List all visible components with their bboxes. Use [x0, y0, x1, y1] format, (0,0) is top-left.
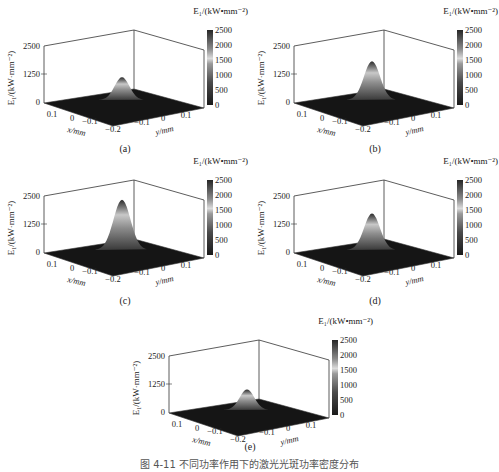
svg-text:0: 0 — [320, 113, 324, 123]
svg-text:0: 0 — [411, 263, 415, 273]
colorbar — [332, 340, 338, 415]
svg-text:2000: 2000 — [465, 190, 482, 200]
svg-text:0.1: 0.1 — [172, 419, 183, 429]
svg-text:0: 0 — [215, 250, 219, 260]
surface-plot-c: 250012500E₁/(kW·mm⁻²)0.10−0.1−0.2x/mm−0.… — [0, 150, 250, 300]
surface-plot-e: 250012500E₁/(kW·mm⁻²)0.10−0.1−0.2x/mm−0.… — [125, 310, 375, 460]
svg-text:0.1: 0.1 — [431, 110, 442, 120]
svg-text:−0.1: −0.1 — [259, 427, 274, 437]
svg-text:0: 0 — [340, 410, 344, 420]
svg-text:2500: 2500 — [273, 41, 290, 51]
svg-text:2500: 2500 — [465, 25, 482, 35]
svg-text:y/mm: y/mm — [278, 433, 299, 447]
panel-label-c: (c) — [105, 295, 145, 306]
svg-text:2000: 2000 — [215, 40, 232, 50]
svg-text:0: 0 — [465, 250, 469, 260]
svg-text:−0.1: −0.1 — [384, 267, 399, 277]
svg-text:0: 0 — [286, 97, 290, 107]
svg-text:0: 0 — [70, 263, 74, 273]
svg-text:−0.1: −0.1 — [332, 266, 347, 276]
svg-text:0.1: 0.1 — [431, 260, 442, 270]
svg-text:y/mm: y/mm — [403, 123, 424, 137]
svg-text:−0.1: −0.1 — [332, 116, 347, 126]
figure-caption: 图 4-11 不同功率作用下的激光光斑功率密度分布 — [0, 456, 499, 471]
colorbar — [207, 180, 213, 255]
svg-text:1250: 1250 — [148, 379, 165, 389]
svg-text:1250: 1250 — [23, 69, 40, 79]
panel-label-d: (d) — [355, 295, 395, 306]
surface-plot-d: 250012500E₁/(kW·mm⁻²)0.10−0.1−0.2x/mm−0.… — [250, 150, 499, 300]
svg-text:1250: 1250 — [273, 69, 290, 79]
axes-box: 250012500E₁/(kW·mm⁻²)0.10−0.1−0.2x/mm−0.… — [256, 6, 498, 138]
svg-text:1000: 1000 — [465, 70, 482, 80]
panel-e: 250012500E₁/(kW·mm⁻²)0.10−0.1−0.2x/mm−0.… — [125, 310, 375, 460]
svg-text:0: 0 — [320, 263, 324, 273]
svg-text:0: 0 — [286, 423, 290, 433]
svg-text:−0.1: −0.1 — [384, 117, 399, 127]
panel-d: 250012500E₁/(kW·mm⁻²)0.10−0.1−0.2x/mm−0.… — [250, 150, 499, 300]
svg-text:E₁/(kW•mm⁻²): E₁/(kW•mm⁻²) — [443, 156, 498, 166]
svg-text:500: 500 — [215, 235, 228, 245]
svg-text:1250: 1250 — [273, 219, 290, 229]
svg-text:E₁/(kW•mm⁻²): E₁/(kW•mm⁻²) — [443, 6, 498, 16]
svg-text:2500: 2500 — [215, 175, 232, 185]
svg-text:0: 0 — [465, 100, 469, 110]
svg-text:E₁/(kW•mm⁻²): E₁/(kW•mm⁻²) — [193, 156, 248, 166]
svg-text:0: 0 — [215, 100, 219, 110]
svg-text:x/mm: x/mm — [191, 434, 212, 448]
svg-text:1250: 1250 — [23, 219, 40, 229]
svg-text:E₁/(kW·mm⁻²): E₁/(kW·mm⁻²) — [6, 201, 16, 256]
svg-text:0: 0 — [195, 423, 199, 433]
svg-text:E₁/(kW•mm⁻²): E₁/(kW•mm⁻²) — [318, 316, 373, 326]
svg-text:1500: 1500 — [215, 205, 232, 215]
svg-text:500: 500 — [215, 85, 228, 95]
svg-text:0.1: 0.1 — [297, 259, 308, 269]
svg-text:1000: 1000 — [215, 70, 232, 80]
colorbar — [457, 30, 463, 105]
svg-text:x/mm: x/mm — [316, 274, 337, 288]
svg-text:0: 0 — [161, 407, 165, 417]
svg-text:2500: 2500 — [465, 175, 482, 185]
axes-box: 250012500E₁/(kW·mm⁻²)0.10−0.1−0.2x/mm−0.… — [6, 156, 248, 288]
panel-c: 250012500E₁/(kW·mm⁻²)0.10−0.1−0.2x/mm−0.… — [0, 150, 250, 300]
svg-text:0.1: 0.1 — [306, 420, 317, 430]
svg-text:1000: 1000 — [340, 380, 357, 390]
svg-text:0.1: 0.1 — [181, 260, 192, 270]
axes-box: 250012500E₁/(kW·mm⁻²)0.10−0.1−0.2x/mm−0.… — [131, 316, 373, 448]
svg-text:2000: 2000 — [340, 350, 357, 360]
svg-text:−0.1: −0.1 — [134, 267, 149, 277]
svg-text:2500: 2500 — [215, 25, 232, 35]
svg-text:0: 0 — [161, 263, 165, 273]
svg-text:E₁/(kW•mm⁻²): E₁/(kW•mm⁻²) — [193, 6, 248, 16]
svg-text:−0.2: −0.2 — [105, 124, 120, 134]
svg-text:500: 500 — [465, 235, 478, 245]
svg-text:1000: 1000 — [465, 220, 482, 230]
svg-text:500: 500 — [465, 85, 478, 95]
svg-text:0: 0 — [36, 247, 40, 257]
svg-text:2500: 2500 — [340, 335, 357, 345]
svg-text:0: 0 — [411, 113, 415, 123]
svg-text:0: 0 — [36, 97, 40, 107]
svg-text:−0.1: −0.1 — [134, 117, 149, 127]
svg-text:0: 0 — [286, 247, 290, 257]
svg-text:0.1: 0.1 — [47, 259, 58, 269]
svg-text:x/mm: x/mm — [316, 124, 337, 138]
svg-text:1000: 1000 — [215, 220, 232, 230]
colorbar — [207, 30, 213, 105]
svg-text:E₁/(kW·mm⁻²): E₁/(kW·mm⁻²) — [6, 51, 16, 106]
svg-text:−0.1: −0.1 — [207, 426, 222, 436]
surface-plot-b: 250012500E₁/(kW·mm⁻²)0.10−0.1−0.2x/mm−0.… — [250, 0, 499, 150]
svg-text:E₁/(kW·mm⁻²): E₁/(kW·mm⁻²) — [256, 201, 266, 256]
panel-a: 250012500E₁/(kW·mm⁻²)0.10−0.1−0.2x/mm−0.… — [0, 0, 250, 150]
svg-text:500: 500 — [340, 395, 353, 405]
svg-text:1500: 1500 — [215, 55, 232, 65]
svg-text:2500: 2500 — [273, 191, 290, 201]
svg-text:0.1: 0.1 — [297, 109, 308, 119]
svg-text:0.1: 0.1 — [47, 109, 58, 119]
colorbar — [457, 180, 463, 255]
svg-text:2500: 2500 — [23, 191, 40, 201]
svg-text:E₁/(kW·mm⁻²): E₁/(kW·mm⁻²) — [256, 51, 266, 106]
svg-text:y/mm: y/mm — [403, 273, 424, 287]
svg-text:E₁/(kW·mm⁻²): E₁/(kW·mm⁻²) — [131, 361, 141, 416]
svg-text:2000: 2000 — [465, 40, 482, 50]
